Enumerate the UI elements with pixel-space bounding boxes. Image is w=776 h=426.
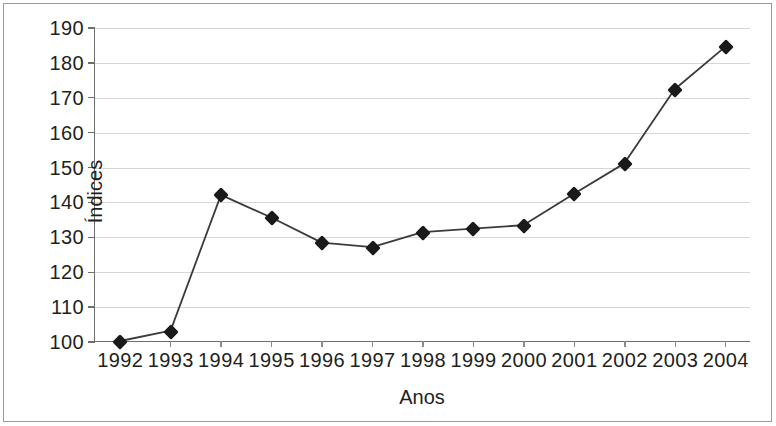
- x-tick-label-2002: 2002: [602, 349, 648, 372]
- x-tick-label-1996: 1996: [299, 349, 345, 372]
- y-tick-label-150: 150: [49, 156, 84, 179]
- chart-figure: 100110120130140150160170180190 199219931…: [0, 0, 776, 426]
- x-tick-mark-2004: [725, 341, 726, 347]
- x-tick-label-1995: 1995: [249, 349, 295, 372]
- y-tick-mark-170: [88, 97, 95, 98]
- x-tick-mark-2000: [523, 341, 524, 347]
- x-tick-label-1998: 1998: [400, 349, 446, 372]
- y-tick-label-130: 130: [49, 226, 84, 249]
- x-tick-mark-1997: [372, 341, 373, 347]
- y-tick-mark-140: [88, 202, 95, 203]
- x-tick-label-1999: 1999: [450, 349, 496, 372]
- y-tick-label-180: 180: [49, 51, 84, 74]
- y-tick-label-100: 100: [49, 331, 84, 354]
- x-tick-label-1994: 1994: [198, 349, 244, 372]
- y-tick-label-160: 160: [49, 121, 84, 144]
- x-tick-mark-1996: [321, 341, 322, 347]
- y-tick-mark-100: [88, 341, 95, 342]
- x-tick-mark-1994: [220, 341, 221, 347]
- y-tick-mark-190: [88, 27, 95, 28]
- x-tick-label-1997: 1997: [349, 349, 395, 372]
- y-tick-label-190: 190: [49, 17, 84, 40]
- y-tick-mark-160: [88, 132, 95, 133]
- y-tick-mark-130: [88, 237, 95, 238]
- x-tick-mark-1995: [271, 341, 272, 347]
- y-tick-label-140: 140: [49, 191, 84, 214]
- plot-area: 100110120130140150160170180190 199219931…: [94, 28, 750, 342]
- series-line: [120, 47, 725, 341]
- x-tick-label-2000: 2000: [501, 349, 547, 372]
- x-tick-mark-1993: [170, 341, 171, 347]
- y-tick-mark-110: [88, 306, 95, 307]
- x-tick-mark-2003: [675, 341, 676, 347]
- x-tick-label-1992: 1992: [97, 349, 143, 372]
- x-tick-mark-2001: [574, 341, 575, 347]
- plot-wrapper: 100110120130140150160170180190 199219931…: [94, 28, 750, 342]
- x-tick-mark-2002: [624, 341, 625, 347]
- y-tick-label-120: 120: [49, 261, 84, 284]
- x-tick-label-1993: 1993: [148, 349, 194, 372]
- y-tick-mark-120: [88, 272, 95, 273]
- x-tick-label-2001: 2001: [551, 349, 597, 372]
- x-tick-mark-1999: [473, 341, 474, 347]
- x-tick-label-2003: 2003: [652, 349, 698, 372]
- y-tick-label-170: 170: [49, 86, 84, 109]
- y-tick-label-110: 110: [51, 296, 84, 319]
- x-tick-mark-1998: [422, 341, 423, 347]
- series-line-svg: [95, 28, 750, 341]
- x-tick-label-2004: 2004: [703, 349, 749, 372]
- x-axis-title: Anos: [94, 386, 750, 409]
- y-tick-mark-150: [88, 167, 95, 168]
- y-tick-mark-180: [88, 62, 95, 63]
